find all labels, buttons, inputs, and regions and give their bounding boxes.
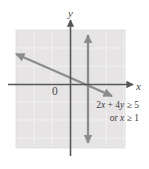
inequality-line-1: 2x + 4y ≥ 5 xyxy=(64,99,139,112)
coordinate-graph-svg xyxy=(0,0,149,169)
y-axis-label: y xyxy=(68,8,73,19)
inequality-annotation: 2x + 4y ≥ 5 or x ≥ 1 xyxy=(64,99,139,124)
x-axis-label: x xyxy=(136,81,141,92)
inequality-line-2: or x ≥ 1 xyxy=(64,112,139,125)
graph-figure: y x 0 2x + 4y ≥ 5 or x ≥ 1 xyxy=(0,0,149,169)
origin-label: 0 xyxy=(52,86,58,98)
